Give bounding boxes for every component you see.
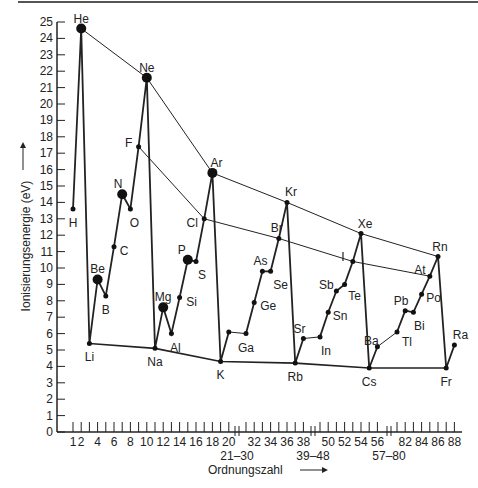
element-label-tl: Tl — [402, 335, 412, 349]
element-label-xe: Xe — [358, 217, 373, 231]
element-label-o: O — [130, 216, 139, 230]
element-label-n: N — [114, 177, 123, 191]
element-label-ar: Ar — [210, 156, 222, 170]
x-tick-label: 52 — [338, 435, 352, 449]
data-point-bi — [411, 310, 416, 315]
y-tick-label: 24 — [40, 31, 54, 45]
data-point-s — [194, 259, 199, 264]
element-label-si: Si — [186, 295, 197, 309]
data-point-b — [103, 293, 108, 298]
data-point-li — [87, 341, 92, 346]
element-label-kr: Kr — [285, 185, 297, 199]
x-tick-label: 18 — [206, 435, 220, 449]
data-point-sr — [301, 336, 306, 341]
element-label-po: Po — [426, 291, 441, 305]
element-label-i: I — [341, 250, 344, 264]
data-point-as — [260, 269, 265, 274]
x-break-label: 21–30 — [220, 449, 254, 463]
data-point-br — [276, 236, 281, 241]
x-tick-label: 32 — [248, 435, 262, 449]
element-label-f: F — [125, 136, 132, 150]
x-break-label: 57–80 — [372, 449, 406, 463]
data-point-te — [342, 282, 347, 287]
break-connector — [229, 332, 246, 334]
y-tick-label: 9 — [46, 277, 53, 291]
x-tick-label: 38 — [297, 435, 311, 449]
x-tick-label: 2 — [78, 435, 85, 449]
y-tick-label: 19 — [40, 113, 54, 127]
element-label-na: Na — [147, 355, 163, 369]
x-tick-label: 88 — [448, 435, 462, 449]
element-label-li: Li — [85, 350, 94, 364]
element-label-ge: Ge — [260, 299, 276, 313]
x-tick-label: 8 — [127, 435, 134, 449]
break-connector — [377, 332, 397, 347]
data-point-rb — [293, 361, 298, 366]
element-label-k: K — [217, 368, 225, 382]
element-label-in: In — [321, 344, 331, 358]
data-point-k — [218, 359, 223, 364]
element-label-rn: Rn — [432, 240, 447, 254]
y-tick-label: 13 — [40, 212, 54, 226]
data-point-sn — [326, 310, 331, 315]
y-tick-label: 3 — [46, 376, 53, 390]
x-tick-label: 50 — [322, 435, 336, 449]
x-arrow-head — [322, 467, 328, 473]
y-tick-label: 8 — [46, 294, 53, 308]
data-point-pb — [403, 308, 408, 313]
element-label-p: P — [178, 243, 186, 257]
element-label-cs: Cs — [362, 375, 377, 389]
y-tick-label: 7 — [46, 310, 53, 324]
element-label-br: Br — [271, 221, 283, 235]
y-tick-label: 20 — [40, 97, 54, 111]
x-tick-label: 12 — [157, 435, 171, 449]
y-tick-label: 17 — [40, 146, 54, 160]
data-point-ra — [452, 343, 457, 348]
element-label-sr: Sr — [293, 322, 305, 336]
element-label-h: H — [69, 216, 78, 230]
y-tick-label: 25 — [40, 15, 54, 29]
x-tick-label: 82 — [399, 435, 413, 449]
y-tick-label: 2 — [46, 392, 53, 406]
y-arrow-head — [20, 142, 26, 148]
data-point-f — [136, 144, 141, 149]
y-tick-label: 15 — [40, 179, 54, 193]
y-tick-label: 23 — [40, 48, 54, 62]
y-tick-label: 1 — [46, 409, 53, 423]
element-label-rb: Rb — [288, 370, 304, 384]
x-tick-label: 10 — [140, 435, 154, 449]
y-axis-title: Ionisierungsenergie (eV) — [19, 181, 33, 312]
data-point-ga — [244, 331, 249, 336]
x-tick-label: 56 — [371, 435, 385, 449]
y-tick-label: 11 — [41, 245, 54, 259]
element-label-c: C — [120, 244, 129, 258]
x-tick-label: 36 — [280, 435, 294, 449]
data-point-cl — [202, 216, 207, 221]
element-label-ne: Ne — [139, 61, 155, 75]
data-point-al — [169, 331, 174, 336]
x-tick-label: 1 — [70, 435, 77, 449]
break-connector — [303, 337, 320, 339]
element-label-se: Se — [273, 278, 288, 292]
element-label-al: Al — [170, 341, 181, 355]
data-point-i — [350, 259, 355, 264]
x-tick-label: 84 — [415, 435, 429, 449]
y-tick-label: 5 — [46, 343, 53, 357]
x-tick-label: 4 — [94, 435, 101, 449]
element-label-as: As — [253, 254, 267, 268]
data-point-tl — [395, 329, 400, 334]
data-point-o — [128, 206, 133, 211]
data-point-cs — [367, 366, 372, 371]
y-tick-label: 22 — [40, 64, 54, 78]
y-tick-label: 4 — [46, 359, 53, 373]
element-label-pb: Pb — [394, 294, 409, 308]
ionization-energy-chart: 0123456789101112131415161718192021222324… — [0, 0, 478, 488]
element-label-b: B — [102, 303, 110, 317]
y-tick-label: 12 — [40, 228, 54, 242]
element-label-mg: Mg — [155, 290, 172, 304]
x-tick-label: 16 — [189, 435, 203, 449]
y-tick-label: 14 — [40, 195, 54, 209]
x-tick-label: 20 — [222, 435, 236, 449]
x-tick-label: 34 — [264, 435, 278, 449]
data-point-kr — [285, 200, 290, 205]
